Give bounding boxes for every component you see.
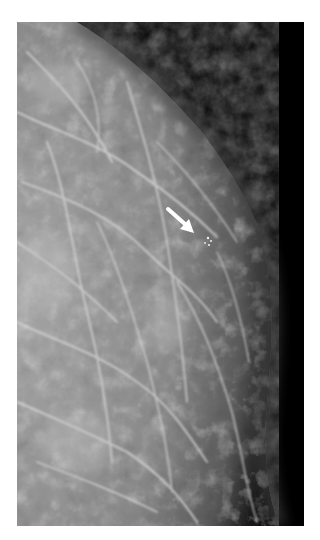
mammogram-svg (17, 22, 304, 526)
figure-caption-fragment (14, 530, 306, 540)
mammogram-image (17, 22, 304, 526)
